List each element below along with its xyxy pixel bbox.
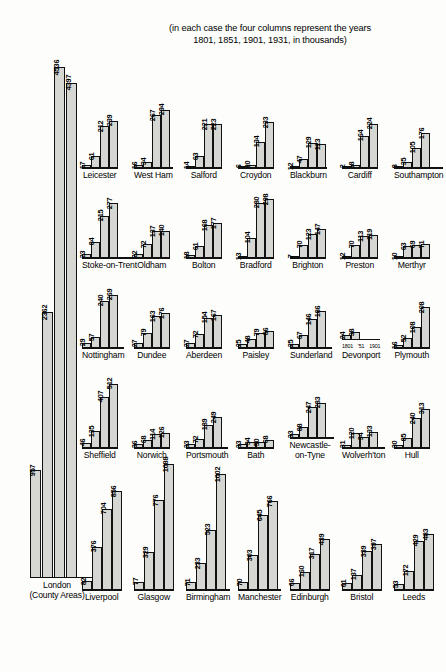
bar-value-label: 27: [183, 339, 190, 347]
bar: 146: [308, 319, 317, 348]
bar-group-liverpool: 82376704856: [82, 463, 122, 591]
panel-label: Bristol: [342, 592, 382, 602]
bar-column: 313: [421, 383, 430, 449]
bar-value-label: 29: [79, 339, 86, 347]
panel-dundee: 2779163176Dundee: [134, 276, 170, 360]
bar-group-paisley: 25487986: [238, 289, 274, 349]
bar-value-label: 240: [409, 412, 416, 424]
bar-group-southampton: 835105176: [394, 109, 443, 169]
bar-value-label: 77: [131, 578, 138, 586]
bar-column: 2: [342, 109, 351, 169]
bar: 215: [100, 216, 109, 259]
panel-bradford: 13104280298Bradford: [238, 186, 274, 270]
bar-value-label: 13: [235, 252, 242, 260]
bar-value-label: 47: [296, 155, 303, 163]
bar: 160: [300, 572, 310, 591]
panel-newcastle-on-tyne: 3388247283Newcastle- on-Tyne: [290, 370, 334, 460]
bar-column: 70: [351, 199, 360, 259]
panel-label: Nottingham: [82, 350, 124, 360]
bar-column: 208: [421, 289, 430, 349]
panel-merthyr: 10636971Merthyr: [394, 186, 430, 270]
bar-column: 13: [238, 199, 247, 259]
year-tick: 1801: [342, 343, 353, 349]
bar: 247: [308, 407, 317, 438]
bar-value-label: 68: [140, 436, 147, 444]
panel-glasgow: 773297761088Glasgow: [134, 450, 174, 602]
bar: 249: [213, 417, 222, 449]
bar-group-sheffield: 46135407512: [82, 383, 118, 449]
panel-label: Sunderland: [290, 350, 332, 360]
bar-column: 429: [414, 463, 424, 591]
bar: 186: [317, 311, 326, 348]
bar-column: 776: [154, 463, 164, 591]
panel-label: Croydon: [238, 170, 274, 180]
bar-column: 439: [320, 463, 330, 591]
bar-column: 277: [109, 199, 118, 259]
bar-value-label: 4397: [64, 75, 71, 91]
bar-column: 94: [360, 383, 369, 449]
bar-value-label: 85: [400, 434, 407, 442]
bar-column: 146: [308, 289, 317, 349]
bar-value-label: 27: [131, 339, 138, 347]
axis-baseline: [394, 589, 434, 590]
bar-value-label: 53: [391, 580, 398, 588]
bar-value-label: 704: [99, 503, 106, 515]
bar: 4536: [54, 67, 65, 578]
bar-value-label: 294: [158, 104, 165, 116]
bar-value-label: 129: [305, 137, 312, 149]
bar-group-newcastle-on-tyne: 3388247283: [290, 373, 334, 439]
axis-baseline: [186, 347, 222, 348]
panel-plymouth: 1652108208Plymouth: [394, 276, 430, 360]
bar-column: 1002: [216, 463, 226, 591]
bar: 223: [213, 124, 222, 169]
bar-value-label: 224: [366, 118, 373, 130]
bar-group-preston: 1270113119: [342, 199, 378, 259]
bar-value-label: 135: [88, 426, 95, 438]
bar-value-label: 61: [88, 152, 95, 160]
panel-brighton: 770123147Brighton: [290, 186, 326, 270]
bar-column: 239: [109, 109, 118, 169]
panel-label: Birmingham: [186, 592, 230, 602]
panel-leicester: 1761212239Leicester: [82, 96, 118, 180]
panel-salford: 1463221223Salford: [186, 96, 222, 180]
axis-baseline: [134, 447, 170, 448]
bar: 240: [100, 301, 109, 349]
bar-column: 645: [258, 463, 268, 591]
bar-value-label: 70: [348, 241, 355, 249]
bar-value-label: 298: [262, 193, 269, 205]
bar: 133: [369, 432, 378, 449]
bar-value-label: 82: [79, 577, 86, 585]
panel-birmingham: 712335231002Birmingham: [186, 450, 230, 602]
bar: 221: [204, 124, 213, 168]
bar-value-label: 167: [210, 309, 217, 321]
bar-value-label: 317: [307, 548, 314, 560]
bar-value-label: 108: [409, 321, 416, 333]
bar-column: 267: [152, 109, 161, 169]
axis-baseline: [134, 589, 174, 590]
bar-value-label: 239: [106, 115, 113, 127]
bar-value-label: 645: [255, 510, 262, 522]
bar-column: 483: [424, 463, 434, 591]
bar: 147: [317, 229, 326, 258]
bar-column: 766: [268, 463, 278, 591]
bar-value-label: 79: [253, 329, 260, 337]
bar-value-label: 57: [88, 333, 95, 341]
panel-label: Merthyr: [394, 260, 430, 270]
bar-value-label: 397: [369, 538, 376, 550]
bar-value-label: 25: [235, 340, 242, 348]
bar-column: 46: [82, 383, 91, 449]
axis-baseline: [290, 167, 327, 168]
bar: 172: [404, 571, 414, 591]
bar-column: 376: [92, 463, 102, 591]
bar-value-label: 72: [192, 435, 199, 443]
bar: 189: [204, 425, 213, 449]
bar-group-aberdeen: 2772154167: [186, 289, 222, 349]
bar-value-label: 34: [140, 158, 147, 166]
bar-value-label: 2362: [40, 304, 47, 320]
panel-sheffield: 46135407512Sheffield: [82, 370, 118, 460]
bar-value-label: 12: [339, 252, 346, 260]
bar-column: 82: [82, 463, 92, 591]
bar-value-label: 63: [400, 242, 407, 250]
bar-column: 240: [412, 383, 421, 449]
bar: 233: [265, 122, 274, 169]
